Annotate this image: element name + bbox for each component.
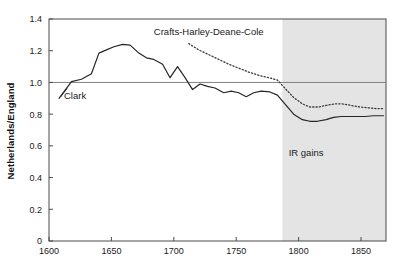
y-tick-label: 0.6 (29, 141, 42, 151)
y-tick-label: 1.0 (29, 78, 42, 88)
y-tick-label: 0 (37, 236, 42, 246)
chdc-label: Crafts-Harley-Deane-Cole (154, 26, 264, 37)
ir-gains-band (282, 19, 386, 241)
y-axis-title: Netherlands/England (5, 82, 16, 179)
ir-gains-label: IR gains (289, 147, 324, 158)
y-tick-label: 0.8 (29, 110, 42, 120)
y-tick-label: 0.4 (29, 173, 42, 183)
y-tick-label: 1.4 (29, 14, 42, 24)
line-chart: 160016501700175018001850 00.20.40.60.81.… (0, 0, 404, 275)
chart-container: 160016501700175018001850 00.20.40.60.81.… (0, 0, 404, 275)
x-tick-label: 1800 (289, 246, 309, 256)
y-tick-label: 0.2 (29, 205, 42, 215)
clark-label: Clark (64, 90, 86, 101)
x-tick-label: 1600 (39, 246, 59, 256)
x-tick-label: 1700 (164, 246, 184, 256)
y-tick-label: 1.2 (29, 46, 42, 56)
x-tick-label: 1650 (101, 246, 121, 256)
shaded-region-group (282, 19, 386, 241)
x-tick-label: 1750 (226, 246, 246, 256)
x-tick-label: 1850 (351, 246, 371, 256)
